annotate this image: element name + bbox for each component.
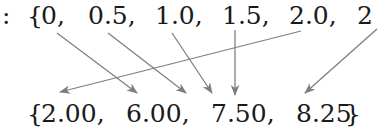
set-mapping-figure: : { 0, 0.5, 1.0, 1.5, 2.0, 2 { 2.00, 6.0… — [0, 0, 383, 133]
arrow-3 — [172, 33, 212, 93]
domain-item: 1.5, — [222, 1, 270, 31]
codomain-close-brace: } — [345, 99, 361, 129]
colon-label: : — [2, 1, 10, 31]
domain-item: 0.5, — [88, 1, 136, 31]
domain-item: 2.0, — [289, 1, 337, 31]
codomain-item: 7.50, — [211, 99, 275, 129]
arrow-5 — [60, 31, 301, 92]
domain-item-truncated: 2 — [357, 1, 373, 31]
codomain-item: 2.00, — [41, 99, 105, 129]
arrow-group — [57, 29, 377, 95]
domain-item: 1.0, — [155, 1, 203, 31]
domain-item: 0, — [41, 1, 65, 31]
codomain-item: 8.25 — [296, 99, 352, 129]
arrow-1 — [57, 33, 137, 93]
arrow-6 — [305, 29, 377, 93]
codomain-item: 6.00, — [126, 99, 190, 129]
